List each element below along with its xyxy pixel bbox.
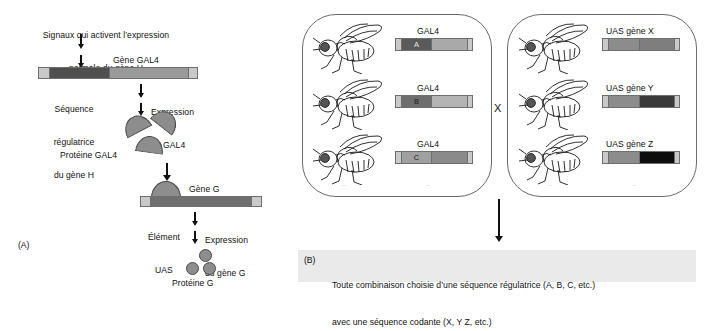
expression-geneg-line-1: Expression xyxy=(205,235,248,246)
gene-gal4-bar-coding-segment xyxy=(109,68,188,78)
driver-bar-3-coding-segment xyxy=(431,152,467,163)
responder-bar-1-uas-segment xyxy=(608,39,639,50)
responder-bar-2-uas-segment xyxy=(608,96,639,107)
panel-b-caption-line-1: Toute combinaison choisie d’une séquence… xyxy=(332,279,595,291)
driver-bar-2-coding-segment xyxy=(431,96,467,107)
panel-a: Signaux qui activent l’expression normal… xyxy=(0,0,292,295)
cross-result-arrow-head xyxy=(495,236,503,242)
driver-construct-label-3: GAL4 xyxy=(417,139,439,150)
regulatory-label-line-2: régulatrice xyxy=(36,137,112,148)
fly-illustration-driver-3 xyxy=(310,133,386,185)
gene-gal4-bar-right-tip xyxy=(188,68,197,78)
responder-construct-bar-3 xyxy=(602,151,680,164)
responder-box-mark-left: ·· xyxy=(548,182,552,188)
gene-g-bar-coding-segment xyxy=(177,197,251,206)
driver-bar-2-regulator-segment: B xyxy=(401,96,431,107)
panel-b-caption-line-2: avec une séquence codante (X, Y Z, etc.) xyxy=(332,316,595,328)
gene-g-label: Gène G xyxy=(189,184,219,195)
gene-g-bar-left-tip xyxy=(141,197,150,206)
gene-gal4-bar xyxy=(38,67,198,79)
protein-g-dot-3 xyxy=(203,262,216,275)
driver-bar-1-regulator-segment: A xyxy=(401,39,431,50)
panel-a-tag: (A) xyxy=(18,240,29,250)
gene-gal4-label: Gène GAL4 xyxy=(113,55,159,66)
fly-illustration-driver-2 xyxy=(310,78,386,130)
responder-bar-1-right-tip xyxy=(674,39,679,50)
expression-geneg-arrow-2-head xyxy=(192,239,198,244)
driver-box-mark-left: ·· xyxy=(342,182,346,188)
responder-bar-2-right-tip xyxy=(674,96,679,107)
responder-construct-label-3: UAS gène Z xyxy=(606,139,653,150)
expression-gal4-arrow-1-head xyxy=(138,93,144,98)
driver-bar-3-right-tip xyxy=(467,152,472,163)
driver-bar-1-regulator-letter: A xyxy=(402,40,431,49)
panel-b-caption-text: Toute combinaison choisie d’une séquence… xyxy=(332,255,595,331)
gene-gal4-bar-regulatory-segment xyxy=(49,68,109,78)
responder-construct-bar-1 xyxy=(602,38,680,51)
driver-construct-label-2: GAL4 xyxy=(417,83,439,94)
panel-b: GAL4 A GAL4 B xyxy=(292,0,705,295)
responder-bar-3-coding-segment xyxy=(639,152,674,163)
driver-bar-1-coding-segment xyxy=(431,39,467,50)
fly-illustration-responder-2 xyxy=(516,78,592,130)
signal-arrow-1-head xyxy=(78,44,84,49)
responder-bar-2-coding-segment xyxy=(639,96,674,107)
regulatory-sequence-label: Séquence régulatrice du gène H xyxy=(36,82,112,203)
fly-illustration-responder-1 xyxy=(516,22,592,74)
responder-construct-bar-2 xyxy=(602,95,680,108)
gene-g-bar-uas-segment xyxy=(150,197,177,206)
driver-box-mark-right: ·· xyxy=(426,182,430,188)
responder-construct-label-2: UAS gène Y xyxy=(606,83,654,94)
protein-g-dot-2 xyxy=(186,262,199,275)
driver-construct-label-1: GAL4 xyxy=(417,26,439,37)
uas-element-line-1: Élément xyxy=(129,232,199,243)
driver-bar-2-right-tip xyxy=(467,96,472,107)
driver-bar-3-regulator-letter: C xyxy=(402,153,431,162)
driver-bar-3-regulator-segment: C xyxy=(401,152,431,163)
driver-bar-1-right-tip xyxy=(467,39,472,50)
driver-construct-bar-2: B xyxy=(395,95,473,108)
fly-illustration-driver-1 xyxy=(310,22,386,74)
gene-g-bar xyxy=(140,196,262,207)
cross-result-arrow-shaft xyxy=(498,199,500,239)
panel-b-tag: (B) xyxy=(304,255,315,265)
protein-g-dot-1 xyxy=(199,249,212,262)
responder-bar-3-right-tip xyxy=(674,152,679,163)
protein-gal4-label: Protéine GAL4 xyxy=(60,150,117,161)
responder-bar-3-uas-segment xyxy=(608,152,639,163)
gene-gal4-bar-left-tip xyxy=(39,68,49,78)
signal-label-line-1: Signaux qui activent l’expression xyxy=(6,30,206,41)
responder-construct-label-1: UAS gène X xyxy=(606,26,654,37)
protein-g-label: Protéine G xyxy=(172,278,214,289)
responder-box-mark-right: ·· xyxy=(632,182,636,188)
regulatory-label-line-1: Séquence xyxy=(36,104,112,115)
responder-bar-1-coding-segment xyxy=(639,39,674,50)
gene-g-bar-right-tip xyxy=(251,197,261,206)
expression-geneg-arrow-1-head xyxy=(192,221,198,226)
regulatory-label-line-3: du gène H xyxy=(36,170,112,181)
driver-construct-bar-1: A xyxy=(395,38,473,51)
fly-illustration-responder-3 xyxy=(516,133,592,185)
gal4-protein-lobe-1 xyxy=(120,110,153,138)
driver-bar-2-regulator-letter: B xyxy=(402,97,431,106)
cross-symbol: X xyxy=(494,102,501,114)
driver-construct-bar-3: C xyxy=(395,151,473,164)
